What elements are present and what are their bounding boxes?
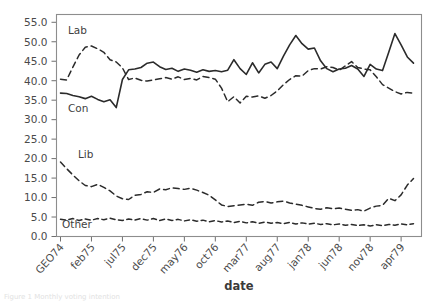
y-tick-label: 10.0 <box>24 191 47 203</box>
y-tick-label: 25.0 <box>24 133 47 145</box>
series-annotation-other: Other <box>62 218 92 230</box>
series-annotation-lab: Lab <box>68 24 87 36</box>
figure-caption: Figure 1 Monthly voting intention <box>0 293 435 302</box>
y-tick-label: 0.0 <box>31 230 48 242</box>
figure-container: 0.05.010.015.020.025.030.035.040.045.050… <box>0 0 435 302</box>
series-annotation-con: Con <box>68 102 88 114</box>
y-tick-label: 50.0 <box>24 36 47 48</box>
chart-background <box>0 0 435 302</box>
y-tick-label: 55.0 <box>24 16 47 28</box>
series-annotation-lib: Lib <box>78 148 94 160</box>
y-tick-label: 5.0 <box>31 211 48 223</box>
y-tick-label: 35.0 <box>24 94 47 106</box>
x-axis-title: date <box>224 279 253 293</box>
y-tick-label: 30.0 <box>24 113 47 125</box>
y-tick-label: 45.0 <box>24 55 47 67</box>
y-tick-label: 15.0 <box>24 172 47 184</box>
y-tick-label: 40.0 <box>24 75 47 87</box>
line-chart: 0.05.010.015.020.025.030.035.040.045.050… <box>0 0 435 302</box>
y-tick-label: 20.0 <box>24 152 47 164</box>
